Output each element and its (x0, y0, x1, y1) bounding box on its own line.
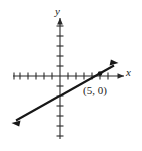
coordinate-plane-svg (0, 0, 142, 151)
x-axis-label: x (126, 67, 131, 78)
graph-figure: y x (5, 0) (0, 0, 142, 151)
line-arrowhead-left-icon (12, 121, 21, 127)
y-axis-label: y (55, 6, 60, 17)
x-intercept-point-label: (5, 0) (83, 85, 107, 96)
y-axis-arrowhead-icon (57, 18, 63, 25)
x-axis-arrowhead-icon (118, 73, 125, 79)
x-intercept-point-marker (98, 71, 103, 76)
y-axis (57, 18, 64, 139)
line-arrowhead-right-icon (110, 60, 119, 66)
x-axis (13, 73, 124, 80)
